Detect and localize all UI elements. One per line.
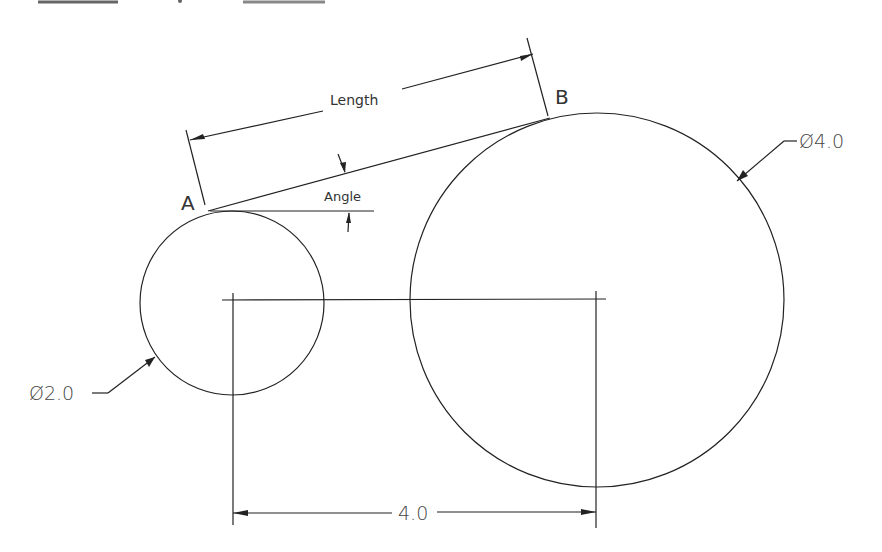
tangent-line [208,118,550,211]
point-b-label: B [555,85,569,109]
small-circle [140,211,324,395]
length-extension-b [527,38,548,116]
centerline [222,291,606,528]
small-diameter-leader [92,357,155,393]
large-diameter-leader [737,141,797,181]
point-a-label: A [181,191,195,215]
top-cropped-fragments [38,0,325,3]
large-circle [410,113,784,487]
cad-drawing: A B Length Angle Ø4.0 Ø2.0 4.0 [0,0,882,552]
large-diameter-label: Ø4.0 [799,130,844,152]
small-diameter-label: Ø2.0 [29,382,74,404]
center-distance-label: 4.0 [398,502,428,524]
angle-label: Angle [324,189,361,204]
length-label: Length [330,92,378,108]
